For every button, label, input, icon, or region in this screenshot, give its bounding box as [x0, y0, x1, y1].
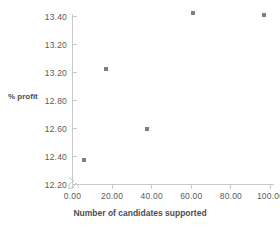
x-axis-tick-mark [151, 184, 152, 189]
data-point [145, 127, 149, 131]
x-axis-tick-mark [230, 184, 231, 189]
data-points-layer [72, 16, 270, 184]
axis-break-icon [67, 176, 81, 190]
data-point [104, 67, 108, 71]
x-axis-tick-mark [270, 184, 271, 189]
y-axis-tick-label: 12.20 [45, 180, 67, 190]
x-axis-tick-label: 60.00 [180, 191, 202, 201]
x-axis-tick-label: 40.00 [141, 191, 163, 201]
data-point [191, 11, 195, 15]
scatter-chart: 13.4013.2013.2012.8012.6012.4012.20 0.00… [0, 0, 280, 230]
x-axis-tick: 80.00 [230, 184, 231, 189]
x-axis-tick: 20.00 [112, 184, 113, 189]
y-axis-tick-label: 12.40 [45, 152, 67, 162]
x-axis-tick-label: 100.00 [257, 191, 280, 201]
x-axis-tick-label: 80.00 [220, 191, 242, 201]
x-axis-tick-mark [191, 184, 192, 189]
x-axis-line [72, 184, 274, 185]
x-axis-title: Number of candidates supported [0, 208, 280, 218]
data-point [262, 13, 266, 17]
x-axis-tick: 60.00 [191, 184, 192, 189]
x-axis-tick: 40.00 [151, 184, 152, 189]
y-axis-tick-label: 13.40 [45, 12, 67, 22]
y-axis-title: % profit [8, 92, 38, 101]
data-point [82, 158, 86, 162]
y-axis-tick-label: 12.60 [45, 124, 67, 134]
x-axis-tick-mark [112, 184, 113, 189]
y-axis-tick-label: 12.80 [45, 96, 67, 106]
x-axis-tick: 100.00 [270, 184, 271, 189]
x-axis-tick-label: 20.00 [101, 191, 123, 201]
y-axis-tick-label: 13.20 [45, 40, 67, 50]
y-axis-tick-label: 13.20 [45, 68, 67, 78]
x-axis-tick-label: 0.00 [64, 191, 81, 201]
